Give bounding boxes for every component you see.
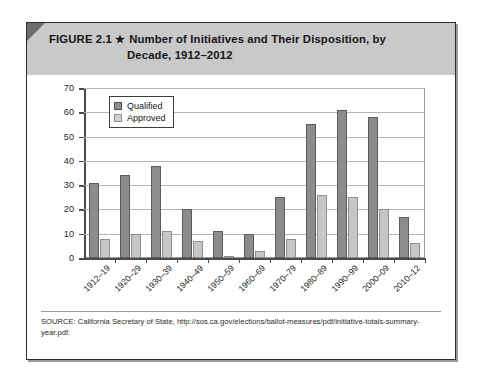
y-tick-mark [79,234,84,236]
legend-item-qualified: Qualified [114,100,166,112]
x-tick-mark [208,259,209,263]
source-divider [41,311,441,312]
y-tick-label: 40 [34,156,74,166]
x-tick-mark [394,259,395,263]
figure-title-line-1: Number of Initiatives and Their Disposit… [129,33,386,45]
bar-qualified [368,117,378,258]
legend-swatch-approved-icon [114,114,122,122]
bar-qualified [337,110,347,258]
legend-swatch-qualified-icon [114,102,122,110]
bar-qualified [213,231,223,258]
x-tick-mark [146,259,147,263]
corner-notch-decoration [27,23,45,41]
bar-qualified [244,234,254,258]
figure-container: FIGURE 2.1★Number of Initiatives and The… [26,22,456,360]
y-tick-label: 0 [34,253,74,263]
y-tick-label: 70 [34,83,74,93]
bar-approved [255,251,265,258]
chart-legend: Qualified Approved [109,96,174,128]
y-tick-label: 50 [34,132,74,142]
x-axis-line [84,258,426,260]
x-tick-mark [363,259,364,263]
bar-approved [131,234,141,258]
bar-qualified [89,183,99,258]
bar-approved [193,241,203,258]
bar-approved [379,209,389,258]
bar-qualified [182,209,192,258]
x-tick-mark [270,259,271,263]
figure-title-line-2: Decade, 1912–2012 [127,47,433,63]
bar-qualified [120,175,130,258]
y-tick-mark [79,209,84,211]
bar-qualified [306,124,316,258]
y-tick-mark [79,137,84,139]
y-tick-label: 10 [34,229,74,239]
legend-item-approved: Approved [114,112,166,124]
source-note: SOURCE: California Secretary of State, h… [41,317,441,338]
y-tick-label: 20 [34,204,74,214]
y-tick-mark [79,112,84,114]
bar-approved [100,239,110,258]
x-tick-mark [115,259,116,263]
bar-approved [286,239,296,258]
y-tick-mark [79,88,84,90]
gridline [84,88,425,89]
figure-header-band: FIGURE 2.1★Number of Initiatives and The… [27,23,455,75]
bar-approved [224,256,234,258]
y-tick-label: 30 [34,180,74,190]
x-tick-mark [239,259,240,263]
x-tick-mark [425,259,426,263]
chart-plot-region: 010203040506070 1912–191920–291930–39194… [27,75,455,311]
legend-label-qualified: Qualified [127,101,163,111]
figure-number-label: FIGURE 2.1 [49,33,112,45]
x-tick-mark [332,259,333,263]
bar-qualified [151,166,161,258]
bar-approved [348,197,358,258]
x-tick-mark [301,259,302,263]
figure-title: FIGURE 2.1★Number of Initiatives and The… [49,31,433,63]
y-tick-mark [79,185,84,187]
y-tick-mark [79,258,84,260]
bar-approved [410,243,420,258]
star-icon: ★ [115,33,125,45]
bar-approved [162,231,172,258]
bar-qualified [275,197,285,258]
y-tick-mark [79,161,84,163]
x-tick-mark [177,259,178,263]
bar-approved [317,195,327,258]
y-tick-label: 60 [34,107,74,117]
legend-label-approved: Approved [127,113,166,123]
bar-qualified [399,217,409,258]
